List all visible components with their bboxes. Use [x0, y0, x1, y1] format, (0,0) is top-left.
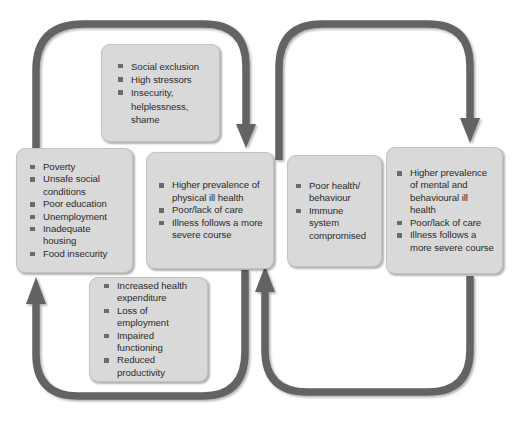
connector-physical-to-mental — [279, 24, 470, 160]
connector-mental-to-physical — [265, 276, 470, 392]
list-item: Poverty — [30, 161, 126, 173]
arrowhead-into-physical-top — [236, 124, 256, 148]
list-item: Higher prevalence of physical ill health — [159, 179, 267, 204]
list-item: Poor education — [30, 198, 126, 210]
physical-ill-health-list: Higher prevalence of physical ill health… — [147, 179, 273, 241]
list-item: Illness follows a more severe course — [159, 217, 267, 242]
list-item: Loss of employment — [104, 305, 201, 330]
list-item: Social exclusion — [118, 60, 213, 73]
poverty-list: Poverty Unsafe social conditions Poor ed… — [17, 161, 132, 260]
mental-ill-health-list: Higher prevalence of mental and behaviou… — [387, 167, 502, 254]
list-item: Unsafe social conditions — [30, 173, 126, 198]
list-item: Increased health expenditure — [104, 280, 201, 305]
arrowhead-into-mental-top — [460, 118, 480, 143]
poverty-box: Poverty Unsafe social conditions Poor ed… — [16, 148, 133, 273]
health-behaviour-list: Poor health/ behaviour Immune system com… — [288, 180, 381, 242]
list-item: Higher prevalence of mental and behaviou… — [397, 167, 496, 217]
arrowhead-into-physical-bottom — [255, 266, 275, 292]
economic-consequences-list: Increased health expenditure Loss of emp… — [90, 280, 207, 379]
social-exclusion-list: Social exclusion High stressors Insecuri… — [102, 60, 219, 126]
list-item: Poor/lack of care — [159, 204, 267, 216]
list-item: Insecurity, helplessness, shame — [118, 86, 213, 126]
list-item: Food insecurity — [30, 248, 126, 260]
list-item: Illness follows a more severe course — [397, 229, 496, 254]
list-item: High stressors — [118, 73, 213, 86]
health-behaviour-box: Poor health/ behaviour Immune system com… — [287, 155, 382, 267]
list-item: Poor/lack of care — [397, 217, 496, 229]
social-exclusion-box: Social exclusion High stressors Insecuri… — [101, 44, 220, 142]
list-item: Inadequate housing — [30, 223, 126, 248]
physical-ill-health-box: Higher prevalence of physical ill health… — [146, 152, 274, 269]
mental-ill-health-box: Higher prevalence of mental and behaviou… — [386, 147, 503, 274]
diagram-canvas: Social exclusion High stressors Insecuri… — [0, 0, 519, 427]
list-item: Unemployment — [30, 211, 126, 223]
list-item: Impaired functioning — [104, 330, 201, 355]
arrowhead-into-poverty-bottom — [26, 277, 46, 304]
list-item: Reduced productivity — [104, 354, 201, 379]
list-item: Immune system compromised — [296, 205, 375, 242]
list-item: Poor health/ behaviour — [296, 180, 375, 205]
economic-consequences-box: Increased health expenditure Loss of emp… — [89, 277, 208, 382]
